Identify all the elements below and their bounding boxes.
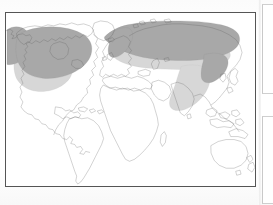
zone-boreal-canada xyxy=(16,27,92,79)
coastline-madagascar xyxy=(160,132,166,147)
coastline-caribbean-islands xyxy=(79,107,104,114)
world-map-graphic xyxy=(6,13,255,186)
adjacent-page-panel-lower xyxy=(262,116,273,204)
coastline-new-zealand xyxy=(247,155,255,172)
coastline-japan xyxy=(227,68,238,93)
world-map-frame xyxy=(5,12,256,187)
coastline-south-america xyxy=(64,117,104,184)
coastline-australia xyxy=(211,140,248,169)
coastline-southeast-asia xyxy=(206,108,244,128)
coastline-tasmania xyxy=(236,170,241,175)
coastline-sri-lanka xyxy=(187,114,191,119)
page-gutter-shadow xyxy=(258,0,261,205)
adjacent-page-panel-upper xyxy=(262,4,273,94)
zone-boreal-manchuria xyxy=(201,53,228,83)
coastline-central-america xyxy=(55,107,81,119)
coastline-africa xyxy=(100,85,159,161)
coastline-black-sea xyxy=(138,69,150,76)
coastline-korea xyxy=(220,73,226,82)
coastline-new-guinea xyxy=(229,129,248,139)
coastline-arabia xyxy=(151,80,171,101)
